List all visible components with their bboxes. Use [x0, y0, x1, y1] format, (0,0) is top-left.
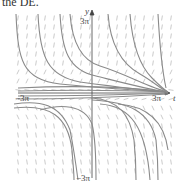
- slope-tick: [81, 151, 82, 156]
- slope-tick: [98, 79, 100, 84]
- slope-tick: [117, 142, 118, 147]
- slope-tick: [54, 25, 55, 30]
- slope-tick: [153, 25, 154, 30]
- slope-tick: [144, 16, 145, 21]
- slope-tick: [153, 61, 154, 66]
- slope-tick: [142, 98, 147, 99]
- slope-tick: [153, 16, 154, 21]
- slope-tick: [161, 115, 163, 120]
- slope-tick: [44, 115, 46, 120]
- slope-tick: [117, 61, 118, 66]
- slope-tick: [27, 61, 28, 66]
- slope-tick: [125, 79, 127, 84]
- slope-tick: [36, 133, 37, 138]
- slope-tick: [54, 151, 55, 156]
- slope-tick: [170, 106, 172, 111]
- slope-tick: [107, 106, 109, 111]
- slope-tick: [126, 43, 127, 48]
- slope-tick: [152, 70, 154, 75]
- slope-tick: [99, 16, 100, 21]
- slope-tick: [54, 34, 55, 39]
- slope-tick: [63, 160, 64, 165]
- slope-tick: [90, 43, 91, 48]
- slope-tick: [90, 142, 91, 147]
- slope-tick: [171, 16, 172, 21]
- slope-tick: [81, 61, 82, 66]
- slope-tick: [36, 169, 37, 174]
- slope-tick: [63, 151, 64, 156]
- slope-tick: [90, 34, 91, 39]
- slope-tick: [125, 70, 127, 75]
- direction-field-plot: y t 3π −3π −3π 3π: [0, 0, 179, 182]
- slope-tick: [45, 142, 46, 147]
- slope-tick: [53, 115, 55, 120]
- slope-tick: [171, 43, 172, 48]
- slope-tick: [18, 142, 19, 147]
- slope-tick: [27, 160, 28, 165]
- slope-tick: [135, 34, 136, 39]
- slope-tick: [116, 115, 118, 120]
- slope-tick: [126, 34, 127, 39]
- slope-tick: [54, 61, 55, 66]
- slope-tick: [117, 16, 118, 21]
- slope-tick: [171, 124, 172, 129]
- slope-tick: [171, 133, 172, 138]
- slope-tick: [81, 133, 82, 138]
- slope-tick: [18, 133, 19, 138]
- slope-tick: [108, 160, 109, 165]
- slope-tick: [35, 70, 37, 75]
- slope-tick: [162, 151, 163, 156]
- slope-tick: [161, 79, 163, 84]
- slope-tick: [18, 52, 19, 57]
- slope-tick: [27, 133, 28, 138]
- t-axis-label: t: [173, 93, 176, 103]
- slope-tick: [171, 61, 172, 66]
- slope-tick: [152, 106, 154, 111]
- slope-tick: [144, 133, 145, 138]
- slope-tick: [107, 115, 109, 120]
- slope-tick: [144, 169, 145, 174]
- slope-tick: [117, 25, 118, 30]
- slope-tick: [143, 106, 145, 111]
- slope-tick: [27, 124, 28, 129]
- slope-tick: [17, 79, 19, 84]
- slope-tick: [18, 61, 19, 66]
- slope-tick: [153, 133, 154, 138]
- slope-tick: [117, 43, 118, 48]
- slope-tick: [153, 169, 154, 174]
- slope-tick: [27, 34, 28, 39]
- slope-tick: [81, 43, 82, 48]
- slope-tick: [45, 43, 46, 48]
- slope-tick: [63, 142, 64, 147]
- slope-tick: [36, 52, 37, 57]
- slope-tick: [135, 169, 136, 174]
- slope-tick: [80, 115, 82, 120]
- y-tick-top: 3π: [80, 16, 90, 26]
- slope-tick: [171, 151, 172, 156]
- slope-tick: [153, 43, 154, 48]
- slope-tick: [162, 16, 163, 21]
- slope-tick: [162, 142, 163, 147]
- slope-tick: [27, 43, 28, 48]
- slope-tick: [36, 25, 37, 30]
- slope-tick: [161, 106, 163, 111]
- y-axis-label: y: [84, 6, 89, 16]
- slope-tick: [99, 61, 100, 66]
- slope-tick: [153, 52, 154, 57]
- slope-tick: [54, 160, 55, 165]
- slope-tick: [72, 52, 73, 57]
- slope-tick: [54, 133, 55, 138]
- t-tick-left: −3π: [15, 93, 30, 103]
- slope-tick: [144, 34, 145, 39]
- slope-tick: [36, 142, 37, 147]
- slope-tick: [18, 25, 19, 30]
- slope-tick: [90, 160, 91, 165]
- slope-tick: [144, 124, 145, 129]
- slope-tick: [162, 34, 163, 39]
- slope-tick: [99, 160, 100, 165]
- slope-tick: [171, 169, 172, 174]
- slope-tick: [135, 133, 136, 138]
- slope-tick: [126, 169, 127, 174]
- slope-tick: [54, 43, 55, 48]
- slope-tick: [81, 124, 82, 129]
